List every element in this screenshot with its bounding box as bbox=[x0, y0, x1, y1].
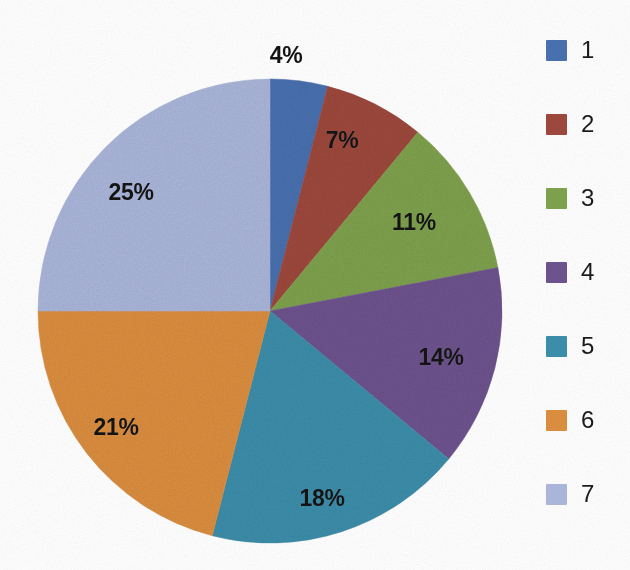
legend-swatch-icon bbox=[546, 114, 567, 135]
legend-swatch-icon bbox=[546, 262, 567, 283]
pie-data-label-6: 21% bbox=[93, 414, 138, 441]
legend-swatch-icon bbox=[546, 484, 567, 505]
legend-swatch-icon bbox=[546, 188, 567, 209]
legend-item-3[interactable]: 3 bbox=[546, 186, 594, 210]
legend-label: 2 bbox=[581, 112, 594, 136]
pie-chart-figure: 4%7%11%14%18%21%25% 1234567 bbox=[0, 0, 630, 570]
legend-label: 1 bbox=[581, 38, 594, 62]
legend-label: 7 bbox=[581, 482, 594, 506]
legend-item-5[interactable]: 5 bbox=[546, 334, 594, 358]
legend-label: 5 bbox=[581, 334, 594, 358]
pie-slice-7[interactable] bbox=[38, 79, 270, 311]
pie-data-label-4: 14% bbox=[418, 344, 463, 371]
pie-data-label-2: 7% bbox=[326, 127, 359, 154]
legend-item-7[interactable]: 7 bbox=[546, 482, 594, 506]
legend-swatch-icon bbox=[546, 410, 567, 431]
legend-item-6[interactable]: 6 bbox=[546, 408, 594, 432]
legend-item-2[interactable]: 2 bbox=[546, 112, 594, 136]
legend-label: 6 bbox=[581, 408, 594, 432]
legend-label: 3 bbox=[581, 186, 594, 210]
legend-swatch-icon bbox=[546, 40, 567, 61]
chart-legend: 1234567 bbox=[546, 38, 626, 538]
legend-swatch-icon bbox=[546, 336, 567, 357]
legend-item-1[interactable]: 1 bbox=[546, 38, 594, 62]
legend-item-4[interactable]: 4 bbox=[546, 260, 594, 284]
pie-data-label-3: 11% bbox=[392, 209, 436, 236]
pie-data-label-5: 18% bbox=[299, 485, 344, 512]
pie-data-label-7: 25% bbox=[108, 179, 153, 206]
legend-label: 4 bbox=[581, 260, 594, 284]
pie-data-label-1: 4% bbox=[270, 42, 303, 69]
